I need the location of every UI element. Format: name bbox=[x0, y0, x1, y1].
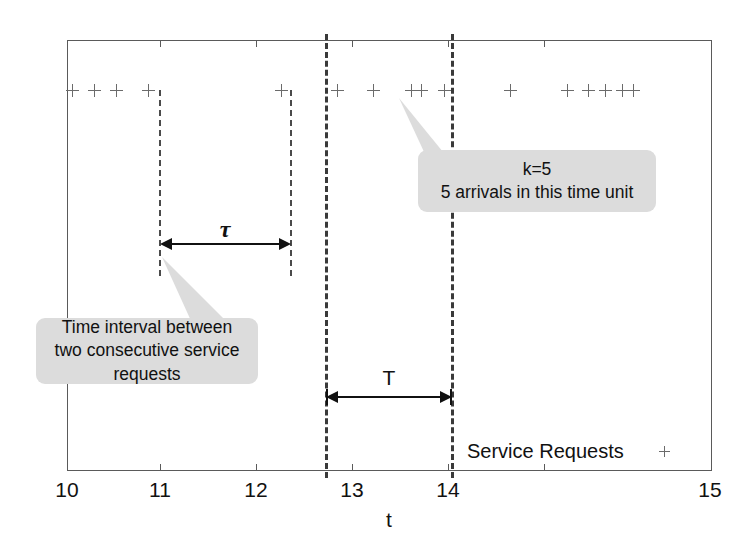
event-marker bbox=[88, 84, 101, 97]
x-tick-12-top bbox=[256, 40, 258, 47]
x-tick-label-14: 14 bbox=[418, 478, 478, 502]
event-marker bbox=[142, 84, 155, 97]
T-start-line bbox=[325, 34, 328, 478]
k-callout-line-1: k=5 bbox=[523, 158, 552, 181]
legend-plus-marker-icon bbox=[659, 446, 670, 457]
T-arrow-head-right bbox=[440, 391, 452, 403]
event-marker bbox=[110, 84, 123, 97]
tau-callout-line-3: requests bbox=[113, 363, 180, 386]
poisson-arrival-process-figure: 10 11 12 13 14 15 t τ Time interval betw… bbox=[0, 0, 754, 551]
legend-label: Service Requests bbox=[467, 440, 624, 463]
T-label: T bbox=[349, 366, 429, 390]
event-marker bbox=[599, 84, 612, 97]
tau-arrow-head-left bbox=[160, 238, 172, 250]
tau-arrow-head-right bbox=[279, 238, 291, 250]
x-axis-title: t bbox=[359, 508, 419, 532]
x-tick-label-11: 11 bbox=[130, 478, 190, 502]
x-tick-13-top bbox=[352, 40, 354, 47]
x-tick-15-top bbox=[544, 40, 546, 47]
x-tick-13-bottom bbox=[352, 464, 354, 471]
event-marker bbox=[627, 84, 640, 97]
event-marker bbox=[331, 84, 344, 97]
x-tick-label-13: 13 bbox=[322, 478, 382, 502]
x-tick-label-10: 10 bbox=[37, 478, 97, 502]
x-tick-14-bottom bbox=[448, 464, 450, 471]
tau-callout: Time interval between two consecutive se… bbox=[36, 318, 258, 384]
event-marker bbox=[66, 84, 79, 97]
x-tick-11-top bbox=[160, 40, 162, 47]
x-tick-11-bottom bbox=[160, 464, 162, 471]
tau-callout-line-1: Time interval between bbox=[62, 316, 233, 339]
event-marker bbox=[438, 84, 451, 97]
x-tick-label-12: 12 bbox=[226, 478, 286, 502]
event-marker bbox=[582, 84, 595, 97]
tau-callout-line-2: two consecutive service bbox=[55, 339, 240, 362]
k-callout: k=5 5 arrivals in this time unit bbox=[418, 150, 656, 212]
k-callout-tail bbox=[395, 96, 535, 158]
event-marker bbox=[367, 84, 380, 97]
x-tick-14-top bbox=[448, 40, 450, 47]
event-marker bbox=[504, 84, 517, 97]
k-callout-line-2: 5 arrivals in this time unit bbox=[441, 181, 634, 204]
event-marker bbox=[415, 84, 428, 97]
x-tick-12-bottom bbox=[256, 464, 258, 471]
event-marker bbox=[561, 84, 574, 97]
tau-arrow-line bbox=[163, 243, 288, 245]
T-arrow-head-left bbox=[326, 391, 338, 403]
x-tick-label-15: 15 bbox=[680, 478, 740, 502]
tau-label: τ bbox=[185, 216, 265, 243]
x-tick-15-bottom bbox=[544, 464, 546, 471]
T-arrow-line bbox=[329, 396, 450, 398]
event-marker bbox=[275, 84, 288, 97]
